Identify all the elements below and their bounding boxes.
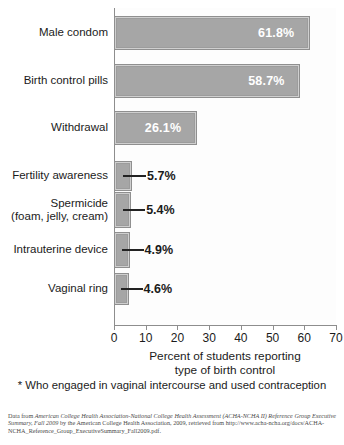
category-label: Vaginal ring: [0, 282, 108, 295]
category-label-line: Intrauterine device: [0, 243, 108, 256]
bar-value-label: 26.1%: [145, 121, 181, 135]
source-prefix: Data from: [8, 412, 35, 419]
category-label-line: Male condom: [0, 26, 108, 39]
category-label: Withdrawal: [0, 121, 108, 134]
category-label-line: Spermicide: [0, 197, 108, 210]
x-tick-label: 70: [321, 331, 344, 345]
category-label-line: Birth control pills: [0, 74, 108, 87]
value-leader-line: [123, 209, 146, 211]
bar-value-label: 4.9%: [145, 243, 174, 257]
x-tick-label: 0: [99, 331, 129, 345]
x-axis-title-line1: Percent of students reporting: [114, 349, 336, 363]
x-tick-mark: [241, 325, 242, 330]
x-tick-label: 60: [289, 331, 319, 345]
category-label-line: Fertility awareness: [0, 169, 108, 182]
value-leader-line: [122, 249, 144, 251]
x-tick-label: 50: [258, 331, 288, 345]
bar-value-label: 4.6%: [144, 282, 173, 296]
category-label: Male condom: [0, 26, 108, 39]
x-tick-mark: [304, 325, 305, 330]
footnote-text: * Who engaged in vaginal intercourse and…: [0, 379, 344, 391]
x-axis-line: [114, 325, 336, 326]
bar-row: 5.7%: [114, 161, 336, 191]
source-citation: Data from American College Health Associ…: [8, 412, 338, 434]
category-label: Spermicide(foam, jelly, cream): [0, 197, 108, 223]
x-tick-mark: [146, 325, 147, 330]
category-label-line: Withdrawal: [0, 121, 108, 134]
x-tick-mark: [114, 325, 115, 330]
bar-row: 61.8%: [114, 16, 336, 50]
value-leader-line: [121, 288, 142, 290]
x-tick-mark: [177, 325, 178, 330]
category-label: Intrauterine device: [0, 243, 108, 256]
category-label-line: Vaginal ring: [0, 282, 108, 295]
bar-row: 4.9%: [114, 232, 336, 268]
x-tick-mark: [336, 325, 337, 330]
x-tick-label: 10: [131, 331, 161, 345]
bar-row: 26.1%: [114, 111, 336, 145]
bar-value-label: 5.7%: [147, 169, 176, 183]
value-leader-line: [123, 175, 146, 177]
category-label: Fertility awareness: [0, 169, 108, 182]
category-label: Birth control pills: [0, 74, 108, 87]
x-tick-mark: [209, 325, 210, 330]
bar-row: 4.6%: [114, 273, 336, 305]
plot-area: 61.8%58.7%26.1%5.7%5.4%4.9%4.6%: [114, 8, 336, 325]
bar-row: 58.7%: [114, 64, 336, 98]
bar-value-label: 61.8%: [258, 26, 294, 40]
x-axis-title: Percent of students reporting type of bi…: [114, 349, 336, 377]
bar-value-label: 5.4%: [146, 203, 175, 217]
x-tick-label: 30: [194, 331, 224, 345]
bar-row: 5.4%: [114, 192, 336, 228]
bar-value-label: 58.7%: [248, 74, 284, 88]
x-tick-label: 20: [162, 331, 192, 345]
x-tick-label: 40: [226, 331, 256, 345]
x-axis-title-line2: type of birth control: [114, 363, 336, 377]
x-tick-mark: [273, 325, 274, 330]
birth-control-bar-chart-figure: 61.8%58.7%26.1%5.7%5.4%4.9%4.6% Male con…: [0, 0, 344, 445]
category-label-line: (foam, jelly, cream): [0, 210, 108, 223]
